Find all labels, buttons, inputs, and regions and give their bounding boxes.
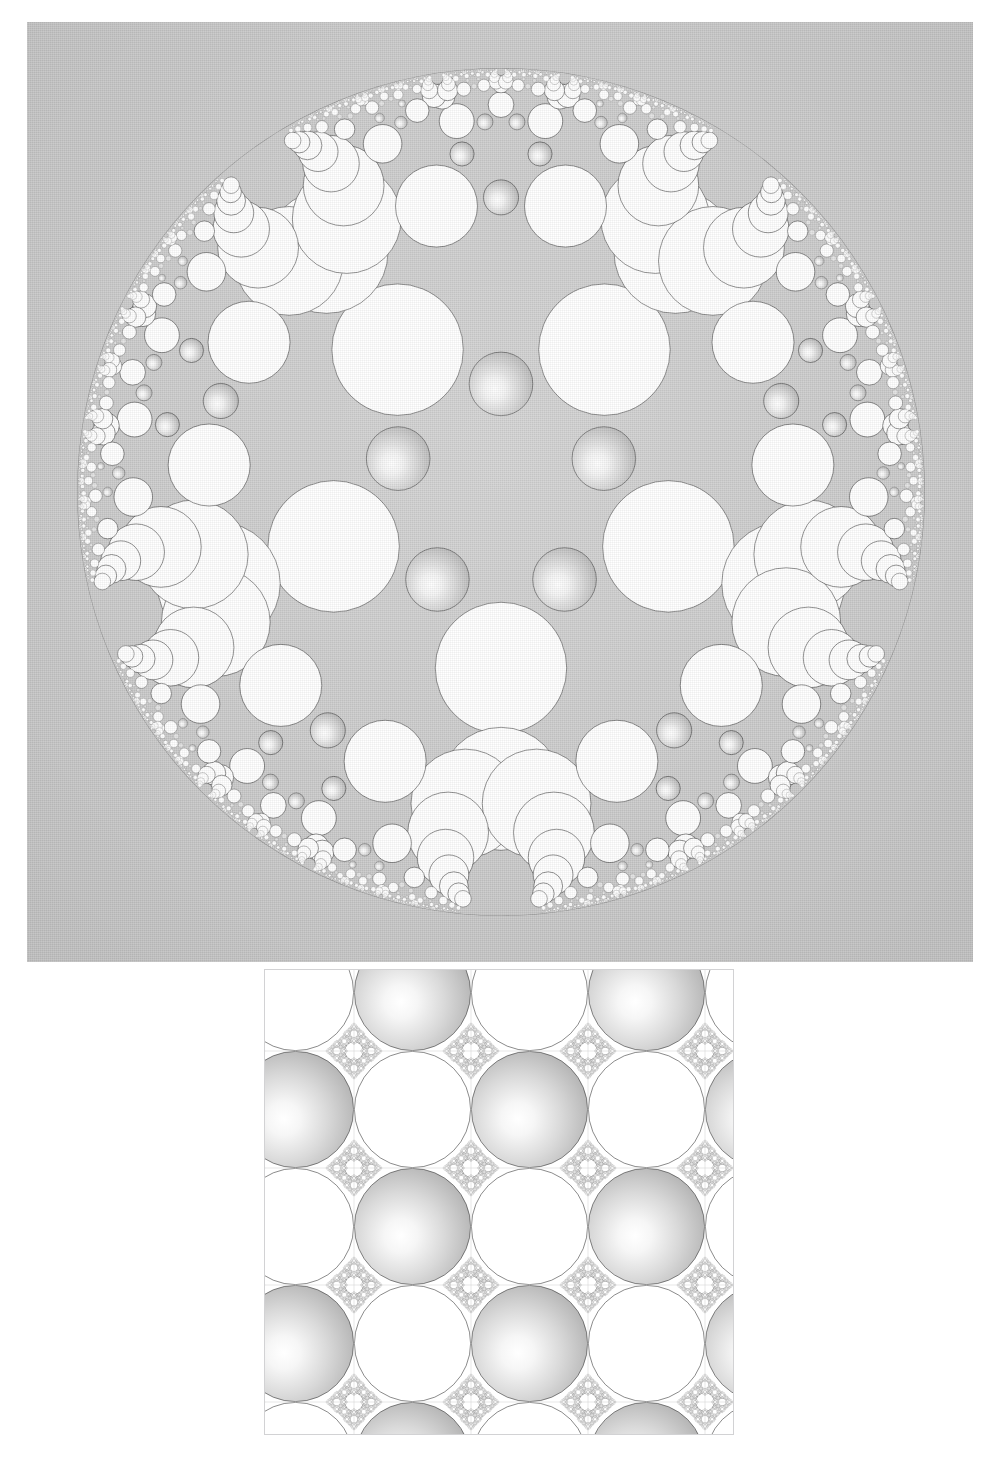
disk-packing-canvas [27,22,973,962]
header-ghost-text: · · · · · [150,0,850,3]
figure-lattice-packing [264,969,734,1435]
header-text-strip: · · · · · [0,0,1001,14]
page-root: · · · · · [0,0,1001,1467]
lattice-packing-canvas [265,970,733,1434]
figure-disk-packing [27,22,973,962]
